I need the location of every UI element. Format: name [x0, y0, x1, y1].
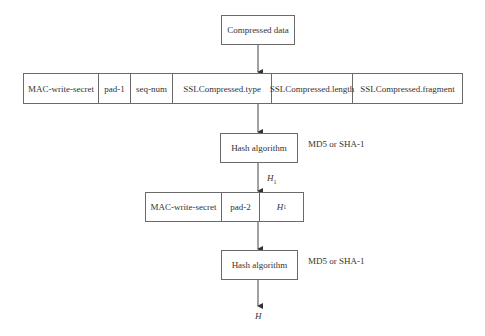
field-sslcompressed-length: SSLCompressed.length [272, 74, 353, 103]
field-seq-num: seq-num [131, 74, 173, 103]
hash-annotation-2: MD5 or SHA-1 [308, 256, 365, 266]
h1-label: H1 [267, 173, 277, 185]
mac-input-row-1: MAC-write-secret pad-1 seq-num SSLCompre… [23, 73, 463, 104]
field-mac-write-secret: MAC-write-secret [24, 74, 99, 103]
mac-input-row-2: MAC-write-secret pad-2 H1 [145, 192, 304, 222]
hash-algorithm-box-2: Hash algorithm [221, 250, 298, 280]
compressed-data-box: Compressed data [221, 15, 295, 45]
field-pad-2: pad-2 [222, 193, 260, 221]
field-mac-write-secret-2: MAC-write-secret [146, 193, 222, 221]
field-sslcompressed-type: SSLCompressed.type [173, 74, 272, 103]
connector-lines [0, 0, 485, 336]
field-h1: H1 [260, 193, 303, 221]
output-h-label: H [255, 311, 262, 321]
compressed-data-label: Compressed data [227, 25, 289, 35]
hash-algorithm-label-1: Hash algorithm [231, 143, 287, 153]
field-pad-1: pad-1 [99, 74, 131, 103]
hash-annotation-1: MD5 or SHA-1 [308, 139, 365, 149]
hash-algorithm-box-1: Hash algorithm [220, 133, 298, 163]
field-sslcompressed-fragment: SSLCompressed.fragment [353, 74, 462, 103]
hash-algorithm-label-2: Hash algorithm [232, 260, 288, 270]
